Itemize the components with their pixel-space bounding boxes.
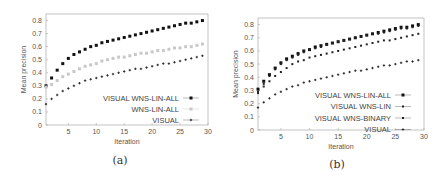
legend-label: VISUAL bbox=[152, 116, 179, 125]
data-point bbox=[95, 62, 98, 65]
legend-label: VISUAL bbox=[364, 125, 391, 134]
data-point bbox=[360, 70, 362, 72]
data-point bbox=[73, 85, 75, 87]
data-point bbox=[314, 55, 316, 57]
data-point bbox=[383, 31, 385, 33]
x-axis-label: Iteration bbox=[114, 138, 139, 145]
figure: 00.10.20.30.40.50.60.70.851015202530Iter… bbox=[0, 0, 442, 182]
data-point bbox=[354, 46, 356, 48]
data-point bbox=[89, 78, 91, 80]
data-point bbox=[389, 39, 391, 41]
data-point bbox=[268, 80, 270, 82]
x-tick-label: 15 bbox=[334, 133, 342, 140]
y-tick-label: 0.1 bbox=[244, 113, 254, 120]
x-tick-label: 30 bbox=[420, 133, 428, 140]
data-point bbox=[67, 87, 69, 89]
data-point bbox=[280, 71, 282, 73]
data-point bbox=[173, 61, 175, 63]
data-point bbox=[331, 42, 333, 44]
data-point bbox=[303, 51, 305, 53]
data-point bbox=[173, 24, 176, 27]
plot-frame bbox=[46, 14, 208, 125]
data-point bbox=[101, 75, 103, 77]
data-point bbox=[325, 76, 327, 78]
data-point bbox=[128, 54, 131, 57]
data-point bbox=[117, 72, 119, 74]
data-point bbox=[156, 28, 159, 31]
y-tick-label: 0.7 bbox=[32, 30, 42, 37]
data-point bbox=[72, 70, 75, 73]
x-tick-label: 10 bbox=[92, 128, 100, 135]
data-point bbox=[343, 39, 345, 41]
data-point bbox=[291, 57, 293, 59]
data-point bbox=[371, 42, 373, 44]
data-point bbox=[72, 53, 75, 56]
series-visual-wns-lin bbox=[257, 25, 419, 93]
data-point bbox=[184, 22, 187, 25]
data-point bbox=[156, 49, 159, 52]
data-point bbox=[268, 97, 270, 99]
data-point bbox=[61, 62, 64, 65]
x-tick-label: 15 bbox=[120, 128, 128, 135]
data-point bbox=[61, 75, 64, 78]
data-point bbox=[184, 45, 187, 48]
data-point bbox=[354, 37, 356, 39]
y-tick-label: 0.8 bbox=[32, 17, 42, 24]
data-point bbox=[303, 81, 305, 83]
data-point bbox=[151, 65, 153, 67]
data-point bbox=[400, 28, 402, 30]
data-point bbox=[95, 77, 97, 79]
data-point bbox=[394, 38, 396, 40]
data-point bbox=[50, 83, 53, 86]
legend-label: VISUAL WNS-BINARY bbox=[315, 114, 391, 123]
y-tick-label: 0.6 bbox=[244, 47, 254, 54]
data-point bbox=[343, 49, 345, 51]
x-tick-label: 20 bbox=[148, 128, 156, 135]
data-point bbox=[360, 45, 362, 47]
data-point bbox=[112, 39, 115, 42]
data-point bbox=[184, 59, 186, 61]
data-point bbox=[377, 33, 379, 35]
data-point bbox=[162, 62, 164, 64]
legend-label: VISUAL WNS-LIN-ALL bbox=[103, 94, 179, 103]
data-point bbox=[417, 25, 419, 27]
legend-label: WNS-LIN-ALL bbox=[131, 105, 179, 114]
data-point bbox=[274, 75, 276, 77]
data-point bbox=[106, 74, 108, 76]
data-point bbox=[406, 35, 408, 37]
data-point bbox=[201, 19, 204, 22]
data-point bbox=[56, 79, 59, 82]
data-point bbox=[190, 22, 193, 25]
data-point bbox=[337, 41, 339, 43]
data-point bbox=[366, 34, 368, 36]
data-point bbox=[360, 35, 362, 37]
data-point bbox=[123, 56, 126, 59]
data-point bbox=[151, 29, 154, 32]
data-point bbox=[308, 80, 310, 82]
y-tick-label: 0 bbox=[250, 127, 254, 134]
data-point bbox=[173, 46, 176, 49]
x-axis-label: Iteration bbox=[328, 143, 353, 150]
data-point bbox=[151, 50, 154, 53]
data-point bbox=[297, 54, 299, 56]
data-point bbox=[400, 62, 402, 64]
data-point bbox=[84, 65, 87, 68]
data-point bbox=[412, 34, 414, 36]
data-point bbox=[285, 88, 287, 90]
data-point bbox=[371, 33, 373, 35]
data-point bbox=[100, 60, 103, 63]
y-tick-label: 0.4 bbox=[32, 69, 42, 76]
y-tick-label: 0.1 bbox=[32, 108, 42, 115]
data-point bbox=[400, 37, 402, 39]
legend-marker bbox=[402, 94, 405, 97]
data-point bbox=[388, 64, 390, 66]
data-point bbox=[190, 57, 192, 59]
y-tick-label: 0.5 bbox=[32, 56, 42, 63]
data-point bbox=[263, 101, 265, 103]
data-point bbox=[280, 63, 282, 65]
y-tick-label: 0.7 bbox=[244, 34, 254, 41]
data-point bbox=[117, 37, 120, 40]
chart-panel-a: 00.10.20.30.40.50.60.70.851015202530Iter… bbox=[20, 14, 212, 145]
data-point bbox=[112, 57, 115, 60]
data-point bbox=[78, 67, 81, 70]
